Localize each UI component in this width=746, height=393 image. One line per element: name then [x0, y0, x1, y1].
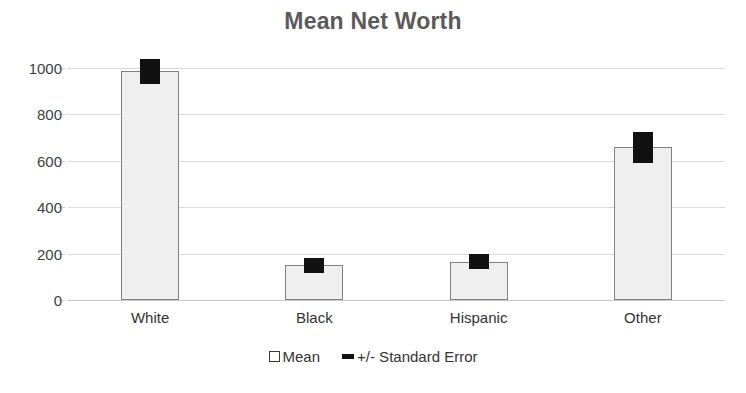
plot-area — [68, 68, 725, 300]
legend-label-mean: Mean — [283, 348, 321, 365]
chart-legend: Mean +/- Standard Error — [0, 348, 746, 365]
error-bar-black — [304, 258, 324, 273]
chart-title: Mean Net Worth — [0, 8, 746, 35]
y-tick-label-800: 800 — [10, 107, 62, 122]
y-tick-label-600: 600 — [10, 153, 62, 168]
legend-entry-mean[interactable]: Mean — [269, 348, 321, 365]
y-tick-label-0: 0 — [10, 293, 62, 308]
bar-white[interactable] — [121, 71, 179, 300]
gridline-1000 — [68, 68, 725, 69]
y-tick-label-1000: 1000 — [10, 61, 62, 76]
error-bar-other — [633, 132, 653, 163]
x-axis-label-other: Other — [561, 310, 725, 325]
bar-other[interactable] — [614, 147, 672, 300]
chart-container: Mean Net Worth 02004006008001000 Mean +/… — [0, 0, 746, 393]
legend-entry-standard-error[interactable]: +/- Standard Error — [342, 348, 477, 365]
y-tick-label-400: 400 — [10, 200, 62, 215]
x-axis-label-black: Black — [232, 310, 396, 325]
legend-label-standard-error: +/- Standard Error — [357, 348, 477, 365]
x-axis-label-hispanic: Hispanic — [397, 310, 561, 325]
gridline-0 — [68, 300, 725, 301]
error-bar-hispanic — [469, 254, 489, 269]
legend-swatch-error-icon — [342, 354, 354, 359]
error-bar-white — [140, 59, 160, 84]
y-axis: 02004006008001000 — [0, 0, 62, 393]
y-tick-label-200: 200 — [10, 246, 62, 261]
x-axis-label-white: White — [68, 310, 232, 325]
legend-swatch-mean-icon — [269, 351, 280, 362]
